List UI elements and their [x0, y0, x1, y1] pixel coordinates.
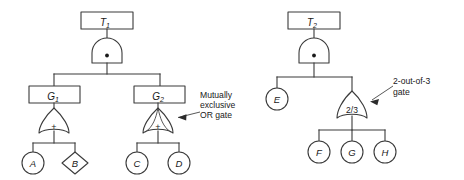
- undeveloped-event-b-label: B: [72, 158, 79, 169]
- intermediate-event-g1-subscript: 1: [55, 95, 59, 102]
- annotation-meor-line3: OR gate: [200, 110, 232, 120]
- intermediate-event-g1: G1: [29, 86, 80, 103]
- basic-event-h: H: [374, 141, 396, 163]
- and-gate-dot-icon: [105, 54, 109, 58]
- or-gate-g1: +: [39, 108, 69, 133]
- top-event-t1-subscript: 1: [106, 21, 110, 28]
- basic-event-g: G: [341, 141, 363, 163]
- annotation-mutually-exclusive: Mutually exclusive OR gate: [178, 90, 236, 121]
- mutually-exclusive-or-gate-g2: +: [143, 108, 173, 133]
- top-event-t2-subscript: 2: [312, 21, 317, 28]
- annotation-vote-arrow-icon: [370, 99, 379, 105]
- basic-event-c-label: C: [134, 158, 141, 169]
- fault-tree-diagram: T1 G1: [0, 0, 464, 180]
- annotation-two-out-of-three: 2-out-of-3 gate: [370, 76, 430, 105]
- annotation-meor-line1: Mutually: [200, 90, 233, 100]
- basic-event-h-label: H: [382, 147, 389, 158]
- basic-event-d: D: [168, 152, 190, 174]
- annotation-meor-arrow-icon: [178, 114, 187, 120]
- right-fault-tree: T2 E 2/3: [266, 12, 430, 163]
- and-gate-top-right: [299, 38, 329, 63]
- fault-tree-figure: T1 G1: [0, 0, 464, 180]
- intermediate-event-g2: G2: [134, 86, 185, 103]
- annotation-vote-leader-line: [372, 86, 393, 100]
- annotation-vote-line1: 2-out-of-3: [393, 76, 430, 86]
- top-event-t2: T2: [288, 12, 340, 29]
- left-fault-tree: T1 G1: [22, 12, 236, 174]
- intermediate-event-g2-subscript: 2: [159, 95, 164, 102]
- basic-event-e: E: [266, 88, 288, 110]
- undeveloped-event-b: B: [62, 152, 88, 174]
- basic-event-g-label: G: [348, 147, 355, 158]
- top-event-t1: T1: [81, 12, 133, 29]
- basic-event-e-label: E: [274, 94, 281, 105]
- and-gate-right-dot-icon: [312, 54, 316, 58]
- or-gate-g1-symbol: +: [51, 122, 56, 132]
- voting-gate-2-of-3: 2/3: [337, 91, 367, 118]
- annotation-meor-line2: exclusive: [200, 100, 236, 110]
- annotation-vote-line2: gate: [393, 87, 410, 97]
- voting-gate-symbol: 2/3: [346, 105, 358, 115]
- basic-event-f: F: [308, 141, 330, 163]
- meor-gate-symbol: +: [155, 122, 160, 132]
- basic-event-d-label: D: [176, 158, 183, 169]
- and-gate-top-left: [92, 38, 122, 63]
- basic-event-c: C: [126, 152, 148, 174]
- basic-event-a: A: [22, 152, 44, 174]
- basic-event-a-label: A: [29, 158, 36, 169]
